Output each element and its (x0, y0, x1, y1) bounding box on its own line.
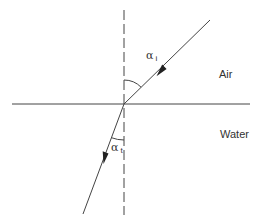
air-label: Air (219, 69, 232, 80)
incidence-angle-symbol: α (146, 49, 153, 62)
transmission-angle-symbol: α (111, 141, 118, 154)
transmission-angle-subscript: t (120, 146, 122, 155)
transmission-angle-arc (111, 138, 124, 140)
transmission-angle-label: αt (111, 142, 123, 155)
incident-ray (124, 20, 210, 104)
incidence-angle-subscript: i (155, 54, 157, 63)
refraction-diagram (0, 0, 264, 223)
incidence-angle-label: αi (146, 50, 157, 63)
water-label: Water (220, 129, 249, 140)
incidence-angle-arc (124, 80, 141, 87)
refracted-arrow-icon (103, 151, 109, 164)
